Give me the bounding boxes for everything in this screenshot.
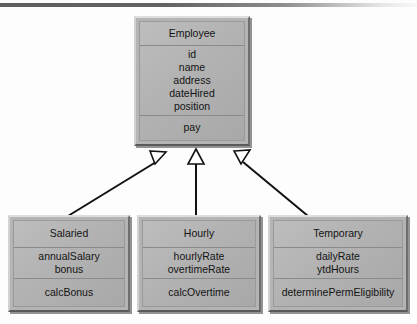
uml-class-hourly-inner: Hourly hourlyRate overtimeRate calcOvert… [142,220,256,307]
uml-class-temporary-inner: Temporary dailyRate ytdHours determinePe… [273,220,403,307]
uml-class-salaried[interactable]: Salaried annualSalary bonus calcBonus [8,215,130,312]
uml-class-hourly-attributes: hourlyRate overtimeRate [143,248,255,279]
uml-attribute: ytdHours [317,263,359,276]
uml-class-salaried-inner: Salaried annualSalary bonus calcBonus [13,220,125,307]
uml-class-hourly-operations: calcOvertime [143,279,255,306]
uml-class-temporary-attributes: dailyRate ytdHours [274,248,402,279]
uml-class-salaried-operations: calcBonus [14,279,124,306]
diagram-canvas: Employee id name address dateHired posit… [0,0,417,324]
uml-class-salaried-name: Salaried [50,227,89,240]
uml-attribute: position [174,100,210,113]
uml-attribute: address [173,74,210,87]
generalization-arrowhead-temporary [234,150,250,164]
generalization-line-temporary [243,162,308,216]
uml-attribute: overtimeRate [168,263,230,276]
generalization-arrowhead-salaried [150,151,166,164]
uml-class-salaried-name-compartment: Salaried [14,221,124,248]
uml-operation: determinePermEligibility [282,286,395,299]
uml-attribute: hourlyRate [174,250,225,263]
uml-class-hourly[interactable]: Hourly hourlyRate overtimeRate calcOvert… [137,215,261,312]
uml-attribute: dateHired [169,87,215,100]
uml-class-temporary-name: Temporary [313,227,363,240]
uml-attribute: annualSalary [38,250,99,263]
uml-class-employee-inner: Employee id name address dateHired posit… [139,21,245,141]
uml-class-temporary-name-compartment: Temporary [274,221,402,248]
uml-class-hourly-name-compartment: Hourly [143,221,255,248]
generalization-line-salaried [68,162,156,216]
uml-class-hourly-name: Hourly [184,227,214,240]
uml-class-temporary[interactable]: Temporary dailyRate ytdHours determinePe… [268,215,408,312]
generalization-arrowhead-hourly [188,149,204,164]
uml-class-employee-attributes: id name address dateHired position [140,46,244,116]
uml-attribute: name [179,61,205,74]
top-divider-rule [0,3,417,7]
uml-class-temporary-operations: determinePermEligibility [274,279,402,306]
uml-class-salaried-attributes: annualSalary bonus [14,248,124,279]
uml-attribute: id [188,48,196,61]
uml-attribute: dailyRate [316,250,360,263]
uml-operation: calcBonus [45,286,93,299]
uml-class-employee-name-compartment: Employee [140,22,244,46]
uml-class-employee-operations: pay [140,116,244,140]
uml-class-employee[interactable]: Employee id name address dateHired posit… [134,16,250,146]
uml-operation: pay [184,121,201,134]
uml-class-employee-name: Employee [169,27,216,40]
uml-operation: calcOvertime [168,286,229,299]
uml-attribute: bonus [55,263,84,276]
